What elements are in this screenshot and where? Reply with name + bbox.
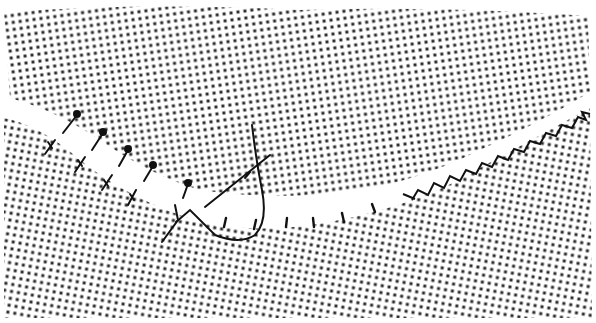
suture-illustration [0, 0, 596, 323]
illustration-svg [0, 0, 596, 323]
